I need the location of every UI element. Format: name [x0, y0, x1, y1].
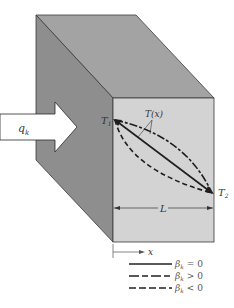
legend-label-beta-zero: βk= 0 [174, 259, 203, 270]
t2-label: T2 [218, 187, 229, 199]
legend: βk= 0 βk> 0 βk< 0 [129, 259, 203, 294]
legend-label-beta-negative: βk< 0 [174, 283, 203, 294]
profile-label: T(x) [145, 109, 164, 119]
x-axis-label: x [148, 247, 153, 257]
heat-conduction-diagram: qk T(x) T1 T2 L x βk= 0 βk> 0 βk< 0 [0, 0, 234, 308]
block-front-face [113, 98, 214, 242]
x-axis-arrowhead [139, 250, 145, 254]
length-label: L [159, 203, 167, 214]
legend-label-beta-positive: βk> 0 [174, 271, 203, 282]
